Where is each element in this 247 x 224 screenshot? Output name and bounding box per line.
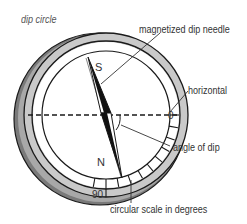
ninety-mark: 90: [92, 189, 104, 200]
figure-title: dip circle: [21, 13, 57, 25]
south-mark: S: [95, 61, 102, 73]
scale-label: circular scale in degrees: [110, 203, 207, 215]
outer-rim: [14, 33, 188, 205]
zero-mark: 0: [168, 110, 174, 121]
horizontal-label: horizontal: [188, 84, 227, 96]
angle-label: angle of dip: [173, 141, 220, 153]
dip-circle-diagram: S N 0 90 dip circle magnetized dip needl…: [0, 0, 247, 224]
needle-label: magnetized dip needle: [139, 23, 230, 35]
north-mark: N: [97, 156, 105, 168]
